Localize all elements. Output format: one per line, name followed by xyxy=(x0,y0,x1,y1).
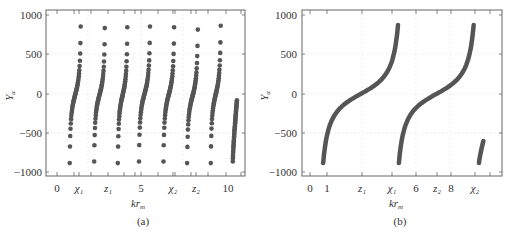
y-tick-0: 0 xyxy=(292,88,298,100)
y-tick-neg500: −500 xyxy=(19,127,42,139)
y-tick-1000: 1000 xyxy=(275,9,298,21)
x-tick-chi2: χ₂ xyxy=(470,182,480,194)
y-axis-label: Ya xyxy=(258,91,272,101)
figure: 1000 500 0 −500 −1000 0 χ₁ z₁ 5 χ₂ z₂ 10… xyxy=(0,0,509,234)
panel-a: 1000 500 0 −500 −1000 0 χ₁ z₁ 5 χ₂ z₂ 10… xyxy=(3,9,245,228)
x-tick-6: 6 xyxy=(413,182,419,194)
y-tick-0: 0 xyxy=(37,88,43,100)
y-tick-neg1000: −1000 xyxy=(269,166,298,178)
x-tick-z2: z₂ xyxy=(191,182,200,194)
x-tick-10: 10 xyxy=(223,182,235,194)
x-axis-label: krm xyxy=(389,197,403,211)
x-tick-5: 5 xyxy=(138,182,144,194)
panel-a-caption: (a) xyxy=(137,215,150,228)
x-tick-chi2: χ₂ xyxy=(168,182,178,194)
y-tick-1000: 1000 xyxy=(20,9,43,21)
y-tick-neg1000: −1000 xyxy=(14,166,43,178)
x-tick-0: 0 xyxy=(54,182,60,194)
x-tick-chi1: χ₁ xyxy=(74,182,84,194)
x-tick-chi1: χ₁ xyxy=(387,182,397,194)
y-tick-500: 500 xyxy=(26,48,43,60)
x-tick-1: 1 xyxy=(324,182,330,194)
panel-b-caption: (b) xyxy=(394,215,407,228)
x-tick-0: 0 xyxy=(307,182,313,194)
y-tick-neg500: −500 xyxy=(274,127,297,139)
panel-a-data-points xyxy=(67,23,239,165)
x-tick-z1: z₁ xyxy=(357,182,366,194)
y-axis-label: Ya xyxy=(3,91,17,101)
x-axis-label: krm xyxy=(131,197,145,211)
x-tick-z1: z₁ xyxy=(103,182,112,194)
x-tick-z2: z₂ xyxy=(432,182,441,194)
panel-b: 1000 500 0 −500 −1000 0 1 z₁ χ₁ 6 z₂ 8 χ… xyxy=(258,9,502,228)
x-tick-8: 8 xyxy=(448,182,454,194)
y-tick-500: 500 xyxy=(281,48,298,60)
